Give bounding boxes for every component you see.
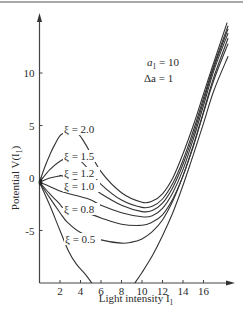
x-axis-arrow-icon xyxy=(226,281,235,286)
series-label: ξ = 1.0 xyxy=(64,180,95,193)
series-label: ξ = 0.8 xyxy=(64,203,95,216)
x-tick-label: 14 xyxy=(178,285,190,297)
axes: 2468101214161050-5 xyxy=(24,13,236,297)
series-label: ξ = 2.0 xyxy=(64,123,95,136)
y-axis-label: Potential V(I1) xyxy=(9,145,24,210)
potential-vs-light-intensity-chart: 2468101214161050-5 ξ = 2.0ξ = 1.5ξ = 1.2… xyxy=(0,0,243,320)
annotation-delta-a: Δa = 1 xyxy=(144,72,173,84)
x-tick-label: 4 xyxy=(78,285,84,297)
y-tick-label: 0 xyxy=(29,172,35,184)
y-tick-label: 10 xyxy=(24,67,36,79)
series-label: ξ = 1.2 xyxy=(64,167,94,180)
x-tick-label: 2 xyxy=(57,285,63,297)
series-label: ξ = 0.5 xyxy=(65,233,96,246)
x-tick-label: 16 xyxy=(198,285,210,297)
series-label: ξ = 1.5 xyxy=(64,150,95,163)
y-tick-label: -5 xyxy=(25,225,35,237)
curves-origin-marker xyxy=(39,179,43,185)
y-axis-arrow-icon xyxy=(37,13,42,22)
y-tick-label: 5 xyxy=(29,120,35,132)
series-labels: ξ = 2.0ξ = 1.5ξ = 1.2ξ = 1.0ξ = 0.8ξ = 0… xyxy=(63,123,101,246)
chart-container: 2468101214161050-5 ξ = 2.0ξ = 1.5ξ = 1.2… xyxy=(0,0,243,320)
annotation-a1: a1 = 10 xyxy=(147,56,179,71)
x-axis-label: Light intensity I1 xyxy=(99,292,174,307)
